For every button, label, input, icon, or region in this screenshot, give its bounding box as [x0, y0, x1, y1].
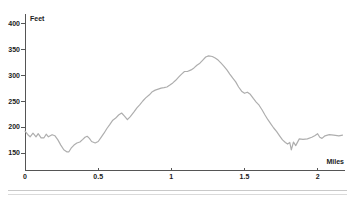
- y-tick-label: 300: [0, 72, 20, 80]
- x-axis-unit-label: Miles: [326, 158, 344, 166]
- elevation-profile-plot: [0, 0, 355, 203]
- y-tick-label: 350: [0, 46, 20, 54]
- bottom-divider: [8, 190, 347, 195]
- x-tick-label: 1: [169, 173, 173, 181]
- x-tick-label: 1.5: [240, 173, 250, 181]
- y-tick-label: 200: [0, 123, 20, 131]
- y-tick-label: 400: [0, 20, 20, 28]
- elevation-profile-line: [25, 56, 343, 152]
- y-tick-label: 250: [0, 98, 20, 106]
- elevation-chart: Feet Miles 150200250300350400 00.511.52: [0, 0, 355, 203]
- y-axis-unit-label: Feet: [30, 15, 44, 23]
- y-tick-label: 150: [0, 149, 20, 157]
- x-tick-label: 0: [23, 173, 27, 181]
- x-tick-label: 0.5: [93, 173, 103, 181]
- x-tick-label: 2: [316, 173, 320, 181]
